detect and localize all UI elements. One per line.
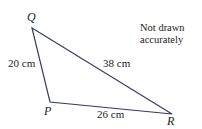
vertex-r-label: R [167,115,174,127]
note-line-2: accurately [140,34,185,46]
note-line-1: Not drawn [140,22,185,34]
side-qp-label: 20 cm [8,57,35,69]
not-drawn-accurately-note: Not drawn accurately [140,22,185,46]
vertex-p-label: P [44,105,51,117]
side-qr-label: 38 cm [103,57,130,69]
vertex-q-label: Q [27,11,36,23]
side-pr-label: 26 cm [97,108,124,120]
